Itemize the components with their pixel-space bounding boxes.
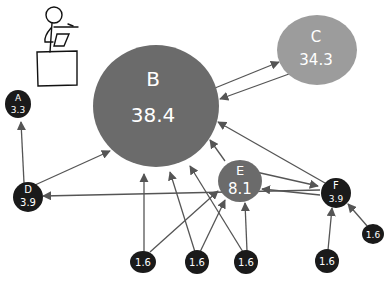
node-f-value: 3.9 (329, 194, 344, 204)
node-e[interactable]: E 8.1 (218, 160, 262, 202)
node-f[interactable]: F 3.9 (321, 178, 351, 208)
node-a[interactable]: A 3.3 (5, 90, 31, 118)
edge-g1-to-e (150, 191, 218, 252)
node-d-label: D (24, 184, 32, 195)
node-g1-value: 1.6 (135, 257, 151, 268)
node-g5-value: 1.6 (366, 230, 381, 240)
pagerank-diagram: B 38.4 C 34.3 E 8.1 A 3.3 D 3.9 F 3.9 1.… (0, 0, 386, 283)
node-g3[interactable]: 1.6 (234, 250, 258, 274)
edge-f-to-d (43, 190, 320, 196)
node-g4[interactable]: 1.6 (315, 249, 339, 273)
node-c[interactable]: C 34.3 (277, 15, 357, 85)
node-g4-value: 1.6 (319, 256, 335, 267)
edge-g3-to-e (245, 203, 247, 251)
node-c-label: C (311, 28, 321, 46)
node-g1[interactable]: 1.6 (130, 251, 156, 273)
node-e-label: E (236, 163, 244, 178)
node-c-value: 34.3 (299, 51, 332, 69)
edge-b-to-c (215, 62, 279, 88)
node-b-value: 38.4 (131, 103, 176, 127)
edge-d-to-b (35, 151, 110, 185)
node-b-label: B (146, 67, 160, 91)
edge-g4-to-f (328, 208, 332, 250)
edge-g2-to-b (170, 172, 195, 252)
node-e-value: 8.1 (228, 180, 252, 198)
edge-g5-to-f (348, 204, 368, 227)
node-b[interactable]: B 38.4 (93, 45, 219, 167)
node-g3-value: 1.6 (238, 257, 254, 268)
node-a-label: A (15, 93, 22, 103)
node-d-value: 3.9 (20, 197, 36, 208)
node-g2[interactable]: 1.6 (185, 250, 209, 274)
edge-d-to-a (21, 122, 24, 183)
edge-e-to-b (210, 140, 225, 161)
speaker-at-podium-icon (37, 7, 78, 86)
node-g5[interactable]: 1.6 (362, 224, 384, 244)
edge-g2-to-e (200, 200, 225, 252)
edge-c-to-b (220, 74, 289, 99)
node-d[interactable]: D 3.9 (13, 182, 43, 212)
node-g2-value: 1.6 (189, 257, 205, 268)
node-f-label: F (333, 180, 339, 191)
node-a-value: 3.3 (11, 105, 25, 115)
